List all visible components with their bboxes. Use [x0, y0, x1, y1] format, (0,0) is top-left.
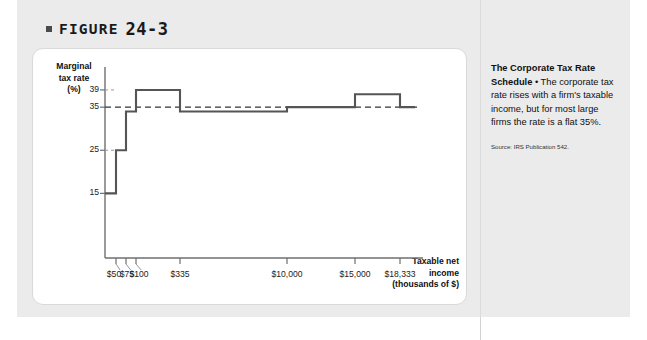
x-tick-label-3: $335 — [152, 269, 208, 279]
page-margin-rule — [480, 0, 481, 340]
caption-separator: • — [532, 77, 540, 87]
x-tick-label-6: $18,333 — [372, 269, 428, 279]
page-margin-rule-lower — [480, 317, 481, 340]
chart-panel: Marginal tax rate (%) Taxable net income… — [32, 48, 467, 305]
figure-title-number: 24-3 — [126, 19, 169, 39]
y-tick-label-15: 15 — [57, 187, 99, 197]
figure-title-label: FIGURE — [59, 21, 119, 37]
reference-line-35 — [105, 90, 417, 193]
figure-caption: The Corporate Tax Rate Schedule • The co… — [491, 62, 615, 151]
caption-text: The Corporate Tax Rate Schedule • The co… — [491, 62, 615, 130]
chart-tick-marks — [100, 90, 400, 270]
tax-rate-step-line — [105, 90, 415, 193]
x-tick-label-4: $10,000 — [259, 269, 315, 279]
chart-plot-area: Marginal tax rate (%) Taxable net income… — [33, 49, 468, 306]
y-tick-label-39: 39 — [57, 84, 99, 94]
figure-title: FIGURE 24-3 — [46, 19, 169, 39]
chart-axes — [105, 67, 423, 258]
square-bullet-icon — [46, 26, 52, 32]
y-tick-label-35: 35 — [57, 101, 99, 111]
caption-source: Source: IRS Publication 542. — [491, 142, 615, 151]
y-tick-label-25: 25 — [57, 144, 99, 154]
